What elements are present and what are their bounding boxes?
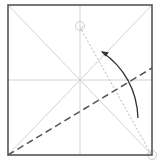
origami-diagram [0,0,160,163]
creases [8,5,152,155]
